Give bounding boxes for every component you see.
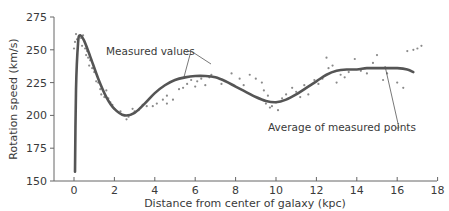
data-point [366, 72, 368, 74]
data-point [182, 87, 184, 89]
x-tick-label: 8 [232, 184, 239, 197]
y-tick-label: 150 [26, 175, 47, 188]
data-point [420, 45, 422, 47]
annotation-measured-label: Measured values [106, 45, 195, 57]
x-tick-label: 18 [431, 184, 445, 197]
x-tick-label: 14 [350, 184, 364, 197]
data-point [317, 83, 319, 85]
data-point [81, 45, 83, 47]
data-point [178, 88, 180, 90]
x-tick-label: 6 [192, 184, 199, 197]
y-tick-label: 250 [26, 44, 47, 57]
x-ticks: 024681012141618 [71, 177, 445, 197]
data-point [156, 102, 158, 104]
data-point [354, 58, 356, 60]
x-tick-label: 4 [151, 184, 158, 197]
y-axis-label: Rotation speed (km/s) [7, 38, 20, 159]
data-point [125, 118, 127, 120]
y-tick-label: 275 [26, 11, 47, 24]
data-point [230, 72, 232, 74]
annotation-avg-leader-2 [385, 66, 399, 128]
data-point [95, 80, 97, 82]
data-point [412, 49, 414, 51]
data-point [348, 71, 350, 73]
data-point [239, 78, 241, 80]
x-tick-label: 16 [390, 184, 404, 197]
data-point [152, 105, 154, 107]
data-point [416, 47, 418, 49]
data-point [263, 89, 265, 91]
data-point [73, 47, 75, 49]
data-point [200, 78, 202, 80]
data-point [249, 74, 251, 76]
x-tick-label: 0 [71, 184, 78, 197]
data-point [325, 57, 327, 59]
data-point [166, 95, 168, 97]
data-point [277, 109, 279, 111]
data-point [166, 102, 168, 104]
data-point [204, 84, 206, 86]
x-tick-label: 12 [309, 184, 323, 197]
annotation-measured-values: Measured values [106, 45, 211, 77]
data-point [85, 54, 87, 56]
data-point [105, 89, 107, 91]
y-tick-label: 225 [26, 77, 47, 90]
x-tick-label: 10 [269, 184, 283, 197]
data-point [131, 108, 133, 110]
data-point [75, 33, 77, 35]
data-point [402, 87, 404, 89]
data-point [344, 76, 346, 78]
annotation-leader-line-3 [191, 51, 211, 64]
data-point [196, 80, 198, 82]
rotation-curve-chart: 150175200225250275 024681012141618 Rotat… [0, 0, 449, 211]
x-tick-label: 2 [111, 184, 118, 197]
data-point [336, 82, 338, 84]
data-point [396, 82, 398, 84]
data-point [265, 102, 267, 104]
annotation-average: Average of measured points [268, 66, 416, 133]
axes: 150175200225250275 024681012141618 [26, 11, 445, 197]
data-point [162, 99, 164, 101]
data-point [243, 84, 245, 86]
data-point [172, 99, 174, 101]
x-axis-label: Distance from center of galaxy (kpc) [144, 197, 346, 210]
data-point [146, 105, 148, 107]
data-point [307, 93, 309, 95]
data-point [269, 106, 271, 108]
data-point [303, 84, 305, 86]
data-point [331, 64, 333, 66]
y-ticks: 150175200225250275 [26, 11, 54, 188]
data-point [100, 93, 102, 95]
data-point [190, 79, 192, 81]
data-point [281, 97, 283, 99]
data-point [327, 67, 329, 69]
data-point [87, 57, 89, 59]
data-point [261, 82, 263, 84]
data-point [382, 79, 384, 81]
data-point [74, 41, 76, 43]
y-tick-label: 200 [26, 109, 47, 122]
data-point [299, 96, 301, 98]
data-point [186, 83, 188, 85]
data-point [372, 62, 374, 64]
data-point [340, 74, 342, 76]
data-point [376, 54, 378, 56]
data-point [271, 105, 273, 107]
data-point [194, 85, 196, 87]
data-point [267, 95, 269, 97]
annotation-average-label: Average of measured points [268, 121, 416, 133]
data-point [406, 50, 408, 52]
data-point [220, 83, 222, 85]
data-point [285, 93, 287, 95]
y-tick-label: 175 [26, 142, 47, 155]
data-point [255, 78, 257, 80]
data-point [88, 64, 90, 66]
data-point [291, 87, 293, 89]
